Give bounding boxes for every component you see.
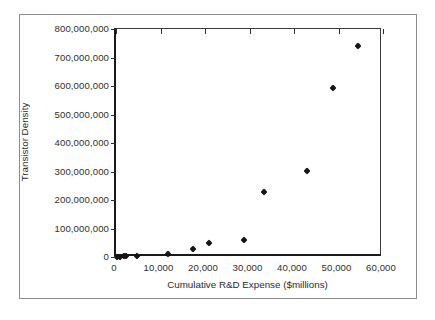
x-axis-tick-label: 10,000 [144,262,174,273]
x-axis-tick-label: 60,000 [366,262,396,273]
y-axis-tick-label: 800,000,000 [55,23,109,34]
x-axis-tick-label: 40,000 [277,262,307,273]
y-axis-tick [111,257,116,258]
y-axis-tick [111,143,116,144]
x-axis-tick [250,29,251,34]
x-axis-tick [116,29,117,34]
x-axis-tick [339,29,340,34]
y-axis-tick-label: 500,000,000 [55,108,109,119]
x-axis-tick-label: 20,000 [188,262,218,273]
y-axis-tick [111,58,116,59]
scatter-point [240,236,247,243]
y-axis-tick [111,172,116,173]
scatter-point [189,245,196,252]
y-axis-tick [111,115,116,116]
chart-figure: 0100,000,000200,000,000300,000,000400,00… [0,0,435,320]
y-axis-tick-label: 700,000,000 [55,51,109,62]
y-axis-tick [111,86,116,87]
x-axis-tick [294,29,295,34]
x-axis-tick [205,29,206,34]
y-axis-tick [111,229,116,230]
y-axis-tick [111,200,116,201]
scatter-point [355,42,362,49]
plot-area [114,28,381,256]
x-axis-tick-label: 30,000 [233,262,263,273]
scatter-point [206,239,213,246]
x-axis-tick [161,29,162,34]
y-axis-title: Transistor Density [19,103,30,182]
y-axis-tick-label: 400,000,000 [55,137,109,148]
x-axis-title: Cumulative R&D Expense ($millions) [114,279,381,290]
scatter-point [260,188,267,195]
y-axis-tick-label: 100,000,000 [55,222,109,233]
y-axis-tick-label: 0 [104,251,109,262]
scatter-points-layer [116,29,380,254]
x-axis-tick-label: 0 [111,262,116,273]
scatter-point [304,168,311,175]
x-axis-tick [383,29,384,34]
y-axis-tick-label: 600,000,000 [55,80,109,91]
scatter-point [330,85,337,92]
x-axis-tick-label: 50,000 [322,262,352,273]
y-axis-tick-labels: 0100,000,000200,000,000300,000,000400,00… [19,28,109,256]
y-axis-tick-label: 200,000,000 [55,194,109,205]
y-axis-tick-label: 300,000,000 [55,165,109,176]
x-axis-tick-labels: 010,00020,00030,00040,00050,00060,000 [114,262,381,278]
